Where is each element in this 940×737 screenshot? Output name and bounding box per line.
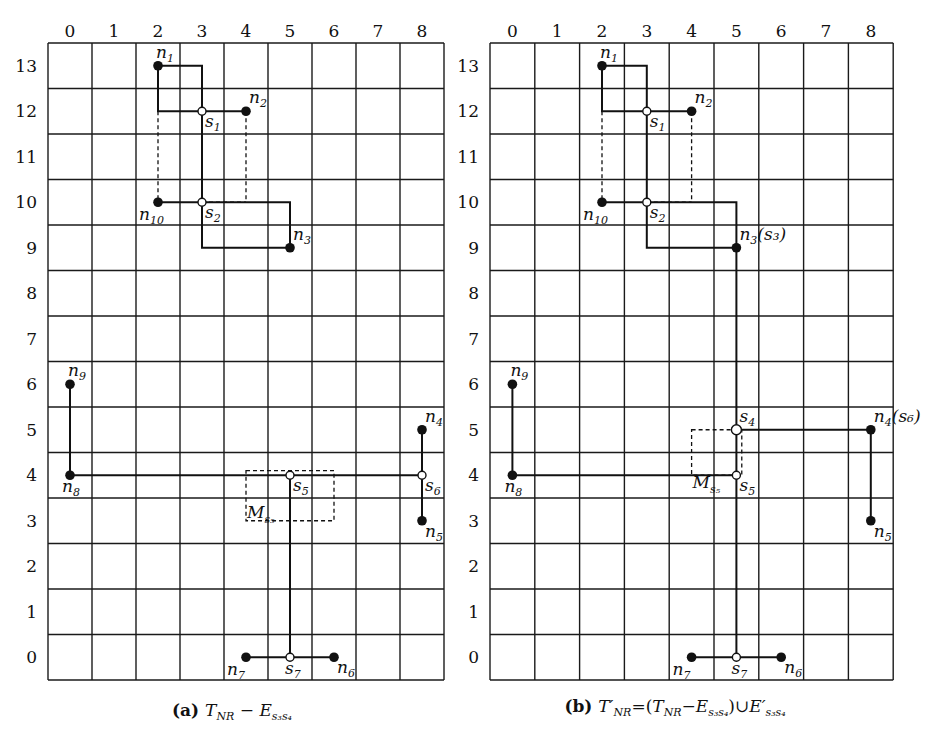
- steiner-node-icon: [731, 425, 741, 435]
- row-label: 5: [468, 420, 479, 440]
- grid: [48, 43, 444, 680]
- node-label-n4: n4: [425, 406, 443, 429]
- column-label: 3: [641, 21, 652, 41]
- row-label: 4: [468, 465, 479, 485]
- pin-node-icon: [732, 243, 742, 253]
- column-label: 6: [329, 21, 340, 41]
- row-label: 13: [15, 56, 37, 76]
- panel-a-grid-diagram: 012345678131211109876543210Ms₅n1n2n3n4n5…: [15, 21, 444, 682]
- node-label-s1: s1: [205, 111, 221, 134]
- pin-node-icon: [597, 197, 607, 207]
- pin-node-icon: [866, 425, 876, 435]
- node-label-n1: n1: [156, 42, 174, 65]
- row-label: 3: [26, 511, 37, 531]
- node-label-n4: n4(s₆): [874, 406, 921, 429]
- panel-b-grid-diagram: 012345678131211109876543210Ms₅n1n2n3(s₃)…: [457, 21, 920, 682]
- row-label: 13: [457, 56, 479, 76]
- row-label: 10: [15, 192, 37, 212]
- row-label: 12: [15, 101, 37, 121]
- column-label: 8: [865, 21, 876, 41]
- row-label: 7: [26, 329, 37, 349]
- node-n5: n5: [417, 516, 443, 544]
- row-label: 1: [26, 602, 37, 622]
- node-n9: n9: [508, 360, 529, 389]
- pin-node-icon: [508, 379, 518, 389]
- panel-b-caption: (b) T′NR=(TNR−Es₃s₄)∪E′s₃s₄: [564, 696, 785, 719]
- row-label: 3: [468, 511, 479, 531]
- node-label-s2: s2: [650, 202, 666, 225]
- row-label: 2: [468, 556, 479, 576]
- row-label: 9: [468, 238, 479, 258]
- node-label-n3: n3(s₃): [739, 224, 786, 247]
- node-label-s7: s7: [731, 658, 747, 681]
- row-label: 0: [26, 647, 37, 667]
- column-label: 1: [552, 21, 563, 41]
- node-label-n8: n8: [504, 476, 522, 499]
- node-n7: n7: [227, 652, 251, 682]
- column-label: 7: [373, 21, 384, 41]
- row-label: 8: [468, 283, 479, 303]
- row-label: 8: [26, 283, 37, 303]
- row-label: 5: [26, 420, 37, 440]
- pin-node-icon: [597, 61, 607, 71]
- node-label-s5: s5: [293, 475, 309, 498]
- node-label-n6: n6: [784, 657, 802, 680]
- row-label: 6: [26, 374, 37, 394]
- node-n6: n6: [329, 652, 355, 680]
- node-label-n2: n2: [249, 87, 267, 110]
- node-label-s7: s7: [285, 658, 301, 681]
- row-label: 0: [468, 647, 479, 667]
- node-label-n10: n10: [583, 204, 608, 227]
- node-label-s5: s5: [739, 475, 755, 498]
- node-n6: n6: [776, 652, 802, 680]
- pin-node-icon: [687, 652, 697, 662]
- pin-node-icon: [285, 243, 295, 253]
- node-label-n6: n6: [337, 657, 355, 680]
- node-n10: n10: [139, 197, 164, 227]
- pin-node-icon: [687, 106, 697, 116]
- node-n10: n10: [583, 197, 608, 227]
- node-label-n9: n9: [68, 360, 86, 383]
- row-label: 2: [26, 556, 37, 576]
- column-label: 6: [776, 21, 787, 41]
- column-label: 5: [285, 21, 296, 41]
- row-label: 9: [26, 238, 37, 258]
- node-label-n10: n10: [139, 204, 164, 227]
- node-label-s6: s6: [425, 475, 441, 498]
- row-label: 10: [457, 192, 479, 212]
- column-label: 5: [731, 21, 742, 41]
- node-label-n5: n5: [425, 521, 443, 544]
- node-label-n5: n5: [874, 521, 892, 544]
- row-label: 12: [457, 101, 479, 121]
- node-label-n7: n7: [227, 659, 245, 682]
- column-label: 8: [417, 21, 428, 41]
- grid: [490, 43, 893, 680]
- node-label-n8: n8: [62, 476, 80, 499]
- node-label-n1: n1: [600, 42, 618, 65]
- node-n5: n5: [866, 516, 892, 544]
- pin-node-icon: [241, 652, 251, 662]
- region-m-s5-label: Ms₅: [246, 502, 275, 526]
- column-label: 4: [241, 21, 252, 41]
- pin-node-icon: [417, 425, 427, 435]
- column-label: 2: [153, 21, 164, 41]
- pin-node-icon: [153, 197, 163, 207]
- node-n7: n7: [673, 652, 697, 682]
- column-label: 4: [686, 21, 697, 41]
- pin-node-icon: [65, 379, 75, 389]
- diagram-canvas: 012345678131211109876543210Ms₅n1n2n3n4n5…: [0, 0, 940, 737]
- node-n2: n2: [241, 87, 267, 116]
- row-label: 11: [15, 147, 37, 167]
- node-label-n3: n3: [293, 224, 311, 247]
- panel-a-caption: (a) TNR − Es₃s₄: [172, 700, 292, 723]
- node-n4: n4: [417, 406, 443, 435]
- pin-node-icon: [241, 106, 251, 116]
- node-label-s4: s4: [739, 406, 755, 429]
- row-label: 11: [457, 147, 479, 167]
- node-label-n2: n2: [695, 87, 713, 110]
- node-label-n9: n9: [510, 360, 528, 383]
- column-label: 3: [197, 21, 208, 41]
- node-label-s2: s2: [205, 202, 221, 225]
- column-label: 0: [65, 21, 76, 41]
- column-label: 0: [507, 21, 518, 41]
